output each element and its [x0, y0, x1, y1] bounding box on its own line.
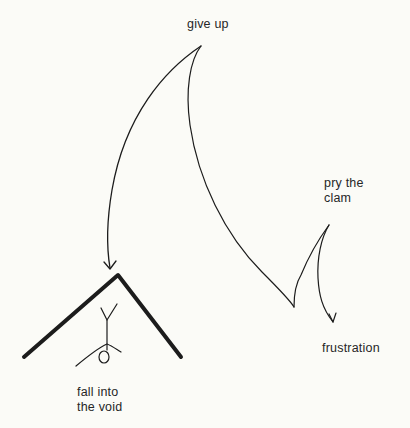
- node-frustration-label: frustration: [322, 341, 380, 356]
- diagram-drawing: [0, 0, 410, 428]
- edge-give-up-to-void: [104, 46, 201, 269]
- node-pry-the-clam-label: pry the clam: [324, 176, 364, 206]
- diagram-canvas: give up pry the clam frustration fall in…: [0, 0, 410, 428]
- edge-clam-to-frustration: [318, 225, 336, 322]
- edge-give-up-to-cusp: [188, 46, 329, 307]
- node-give-up-label: give up: [187, 17, 229, 32]
- void-roof-icon: [24, 275, 181, 357]
- falling-stick-figure-icon: [76, 304, 121, 366]
- node-fall-into-the-void-label: fall into the void: [77, 385, 122, 415]
